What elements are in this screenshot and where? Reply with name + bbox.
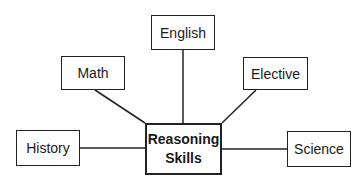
node-history: History bbox=[16, 130, 80, 166]
node-elective: Elective bbox=[243, 57, 308, 90]
node-elective-label: Elective bbox=[251, 65, 300, 83]
center-label-line2: Skills bbox=[165, 149, 202, 168]
node-english-label: English bbox=[160, 24, 206, 42]
node-math: Math bbox=[61, 56, 125, 90]
node-reasoning-skills: Reasoning Skills bbox=[145, 123, 222, 175]
edge-math bbox=[95, 90, 145, 123]
node-history-label: History bbox=[26, 139, 70, 157]
node-english: English bbox=[151, 15, 215, 50]
center-label-line1: Reasoning bbox=[148, 130, 220, 149]
node-science-label: Science bbox=[294, 140, 344, 158]
node-science: Science bbox=[287, 131, 351, 167]
node-math-label: Math bbox=[77, 64, 108, 82]
edge-elective bbox=[222, 90, 256, 123]
